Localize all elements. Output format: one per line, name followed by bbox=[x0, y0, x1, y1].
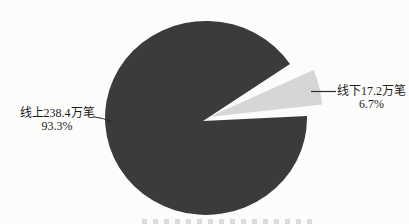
callout-online-label: 线上238.4万笔 bbox=[20, 106, 95, 120]
callout-offline: 线下17.2万笔 6.7% bbox=[334, 85, 409, 111]
callout-offline-label: 线下17.2万笔 bbox=[337, 84, 406, 98]
pie-chart-figure: 线上238.4万笔 93.3% 线下17.2万笔 6.7% bbox=[0, 0, 409, 224]
callout-online: 线上238.4万笔 93.3% bbox=[18, 107, 96, 133]
pie-slice-online bbox=[105, 21, 307, 215]
clipped-caption-remnant bbox=[142, 219, 312, 224]
callout-online-percent: 93.3% bbox=[18, 120, 96, 133]
callout-offline-percent: 6.7% bbox=[334, 98, 409, 111]
